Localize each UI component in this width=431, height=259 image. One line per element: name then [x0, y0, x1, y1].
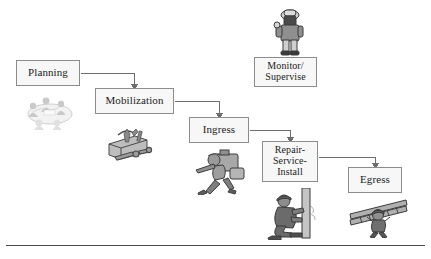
planning-meeting-illustration [22, 92, 75, 130]
toolbox-illustration [105, 124, 160, 164]
worker-carrying-equipment-illustration [190, 148, 248, 195]
node-repair-service-install[interactable]: Repair- Service- Install [262, 141, 318, 182]
supervisor-figure-illustration [272, 8, 306, 56]
node-mobilization[interactable]: Mobilization [95, 88, 174, 114]
node-egress-label: Egress [360, 174, 390, 186]
bottom-rule [6, 245, 425, 246]
node-monitor-supervise[interactable]: Monitor/ Supervise [254, 57, 317, 87]
node-mobilization-label: Mobilization [105, 95, 163, 107]
node-repair-line-3: Install [277, 167, 303, 178]
node-egress[interactable]: Egress [348, 167, 402, 193]
node-planning-label: Planning [28, 67, 68, 79]
node-ingress-label: Ingress [203, 124, 235, 136]
worker-carrying-ladder-illustration [348, 194, 410, 238]
figure-canvas: Planning Mobilization Ingress Repair- Se… [0, 0, 431, 259]
node-monitor-line-2: Supervise [265, 72, 305, 83]
node-planning[interactable]: Planning [16, 60, 80, 86]
node-ingress[interactable]: Ingress [189, 117, 249, 143]
worker-repairing-pole-illustration [262, 188, 321, 240]
